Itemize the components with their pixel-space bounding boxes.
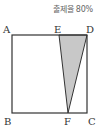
point-label-b: B — [4, 116, 11, 127]
point-label-c: C — [88, 116, 96, 127]
geometry-diagram: A E D B F C — [0, 0, 100, 131]
point-label-a: A — [2, 24, 11, 35]
point-label-d: D — [86, 24, 94, 35]
shaded-triangle-efd — [59, 35, 87, 113]
point-label-f: F — [64, 116, 71, 127]
point-label-e: E — [54, 24, 61, 35]
